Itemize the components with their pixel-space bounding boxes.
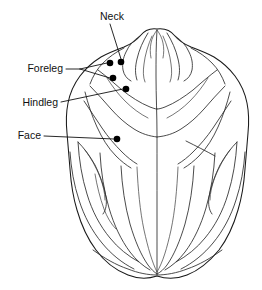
- brain-diagram-figure: Neck Foreleg Hindleg Face: [0, 0, 262, 290]
- site-dot-face: [114, 136, 121, 143]
- site-dot-hindleg: [123, 86, 130, 93]
- site-dot-foreleg-lower: [110, 75, 117, 82]
- label-face: Face: [18, 129, 42, 141]
- label-hindleg: Hindleg: [22, 96, 58, 108]
- site-dot-neck: [118, 59, 125, 66]
- label-foreleg: Foreleg: [27, 62, 63, 74]
- label-neck: Neck: [100, 10, 125, 22]
- site-dot-foreleg-upper: [107, 60, 114, 67]
- brain-diagram-canvas: Neck Foreleg Hindleg Face: [0, 0, 262, 290]
